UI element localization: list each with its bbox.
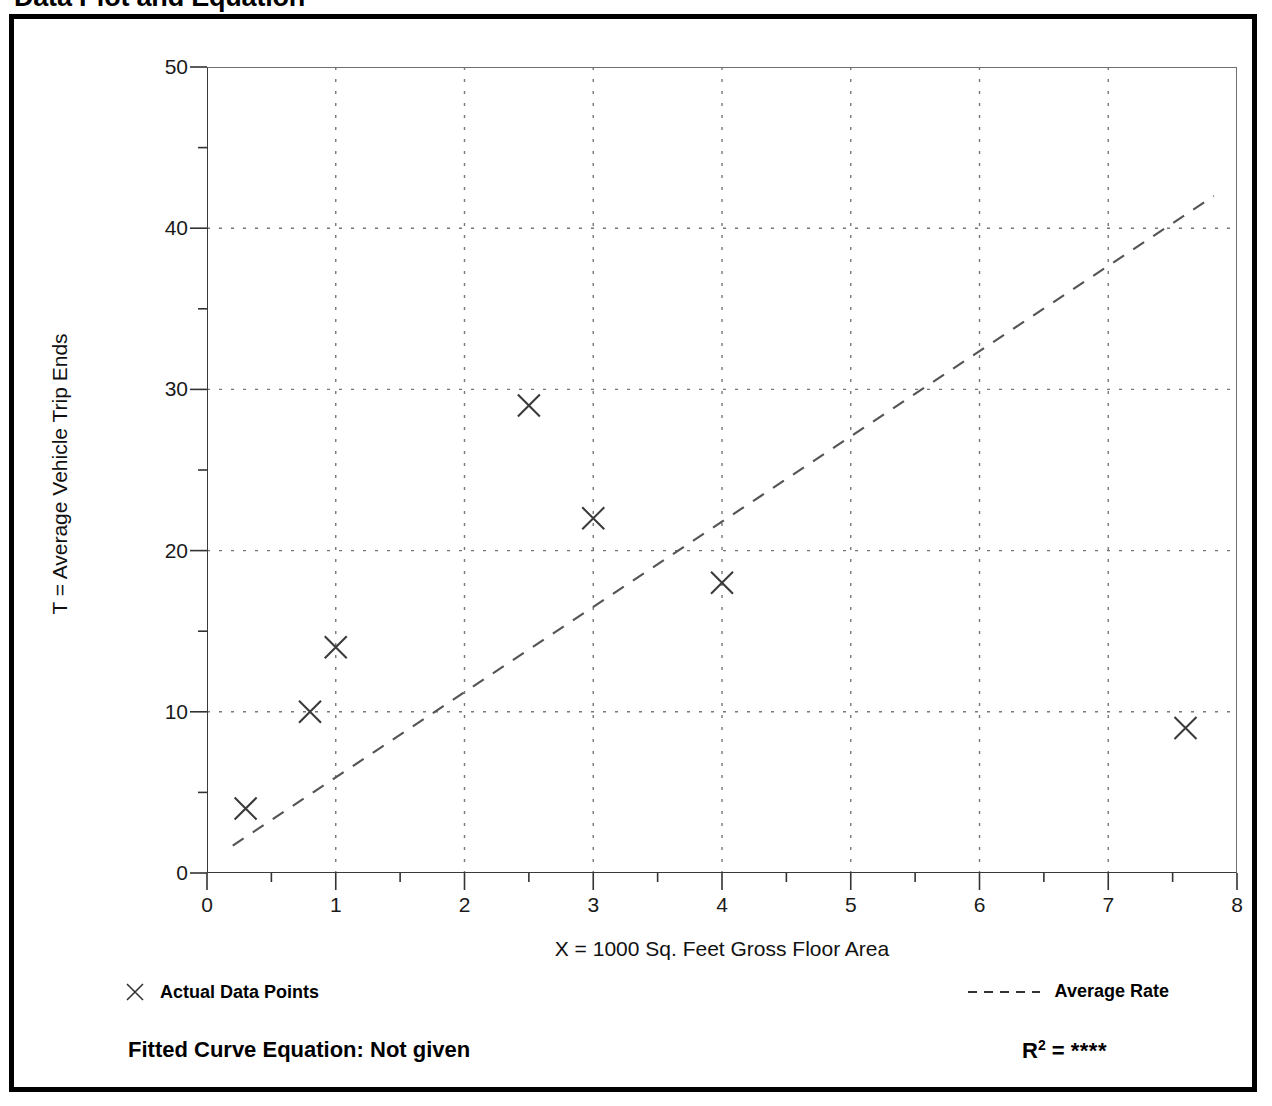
- r-squared-equals: =: [1046, 1038, 1071, 1063]
- x-axis-tick-labels: 012345678: [207, 893, 1237, 923]
- x-tick-label: 0: [201, 893, 213, 917]
- plot-frame: [207, 67, 1237, 873]
- r-squared-symbol: R: [1022, 1038, 1038, 1063]
- chart-legend: Actual Data Points Average Rate: [114, 981, 1169, 1015]
- legend-item-average-rate: Average Rate: [967, 981, 1169, 1002]
- chart-page: Data Plot and Equation 01020304050 01234…: [0, 0, 1272, 1106]
- page-title: Data Plot and Equation: [14, 0, 305, 13]
- x-tick-label: 5: [845, 893, 857, 917]
- chart-footer: Fitted Curve Equation: Not given R2 = **…: [114, 1037, 1169, 1077]
- x-axis-title: X = 1000 Sq. Feet Gross Floor Area: [207, 937, 1237, 961]
- fitted-curve-equation: Fitted Curve Equation: Not given: [128, 1037, 470, 1063]
- x-tick-label: 3: [587, 893, 599, 917]
- dashed-line-icon: [967, 987, 1041, 997]
- x-tick-label: 8: [1231, 893, 1243, 917]
- x-tick-label: 1: [330, 893, 342, 917]
- y-tick-label: 10: [165, 700, 188, 724]
- legend-item-actual-data-points: Actual Data Points: [124, 981, 319, 1003]
- chart-panel: 01020304050 012345678 T = Average Vehicl…: [9, 14, 1257, 1092]
- y-axis-tick-labels: 01020304050: [114, 67, 188, 873]
- r-squared-stars: ****: [1071, 1038, 1107, 1063]
- y-tick-label: 20: [165, 539, 188, 563]
- y-axis-title: T = Average Vehicle Trip Ends: [48, 124, 72, 824]
- x-tick-label: 2: [459, 893, 471, 917]
- x-marker-icon: [124, 981, 146, 1003]
- legend-label-average-rate: Average Rate: [1055, 981, 1169, 1002]
- x-tick-label: 7: [1102, 893, 1114, 917]
- y-tick-label: 40: [165, 216, 188, 240]
- r-squared-exponent: 2: [1038, 1037, 1046, 1053]
- y-tick-label: 30: [165, 377, 188, 401]
- r-squared-value: R2 = ****: [1022, 1037, 1107, 1064]
- x-tick-label: 4: [716, 893, 728, 917]
- y-tick-label: 50: [165, 55, 188, 79]
- y-tick-label: 0: [176, 861, 188, 885]
- legend-label-actual-data-points: Actual Data Points: [160, 982, 319, 1003]
- plot-area: [207, 67, 1237, 873]
- x-tick-label: 6: [974, 893, 986, 917]
